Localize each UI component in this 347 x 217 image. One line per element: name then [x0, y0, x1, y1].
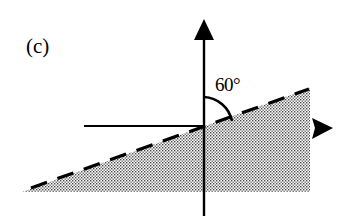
- panel-label: (c): [26, 34, 49, 59]
- right-arrow-icon: [312, 118, 333, 139]
- angle-label: 60°: [215, 74, 240, 96]
- diagram-canvas: [0, 0, 347, 217]
- up-arrow-icon: [194, 19, 214, 40]
- diagram-figure: (c) 60°: [0, 0, 347, 217]
